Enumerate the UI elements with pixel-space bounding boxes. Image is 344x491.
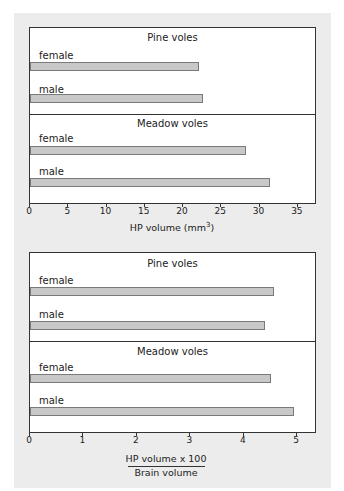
group-title-meadow-voles: Meadow voles (30, 346, 315, 357)
bar-meadow-female (30, 374, 271, 383)
axis-label-text: HP volume (mm (130, 222, 206, 233)
x-tick-label: 10 (100, 206, 111, 216)
group-title-pine-voles: Pine voles (30, 258, 315, 269)
x-tick-label: 25 (215, 206, 226, 216)
hp-volume-chart: Pine voles female male Meadow voles fema… (29, 27, 316, 204)
x-axis-hp-brain-ratio: 012345 (29, 432, 316, 452)
bar-label-pine-female: female (39, 50, 73, 61)
group-divider (30, 341, 315, 342)
axis-label-close: ) (211, 222, 215, 233)
x-tick-label: 0 (26, 206, 32, 216)
bar-label-meadow-female: female (39, 133, 73, 144)
x-axis-label-denominator: Brain volume (134, 467, 197, 478)
x-tick-label: 20 (176, 206, 187, 216)
bar-meadow-male (30, 178, 270, 187)
group-title-meadow-voles: Meadow voles (30, 118, 315, 129)
x-tick-label: 5 (64, 206, 70, 216)
x-tick-label: 15 (138, 206, 149, 216)
bar-meadow-male (30, 407, 294, 416)
group-divider (30, 114, 315, 115)
bar-label-pine-male: male (39, 309, 64, 320)
x-tick-label: 5 (293, 435, 299, 445)
x-tick-label: 35 (291, 206, 302, 216)
bar-label-pine-female: female (39, 275, 73, 286)
bar-pine-male (30, 94, 203, 103)
bar-meadow-female (30, 146, 246, 155)
x-tick-label: 30 (253, 206, 264, 216)
bar-label-meadow-male: male (39, 395, 64, 406)
x-axis-label-numerator: HP volume x 100 (126, 453, 207, 464)
bar-pine-female (30, 287, 274, 296)
x-tick-label: 1 (80, 435, 86, 445)
bar-label-meadow-male: male (39, 166, 64, 177)
x-tick-label: 0 (26, 435, 32, 445)
hp-brain-ratio-chart: Pine voles female male Meadow voles fema… (29, 252, 316, 433)
x-tick-label: 4 (240, 435, 246, 445)
bar-label-meadow-female: female (39, 362, 73, 373)
group-title-pine-voles: Pine voles (30, 32, 315, 43)
x-axis-label-hp-volume: HP volume (mm3) (130, 221, 215, 233)
bar-pine-male (30, 321, 265, 330)
bar-pine-female (30, 62, 199, 71)
x-tick-label: 2 (133, 435, 139, 445)
x-tick-label: 3 (186, 435, 192, 445)
